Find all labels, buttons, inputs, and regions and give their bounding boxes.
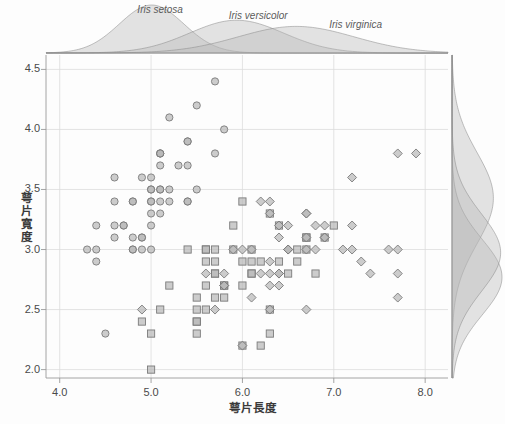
data-point bbox=[102, 330, 109, 337]
data-point bbox=[211, 150, 218, 157]
x-tick-label: 4.0 bbox=[40, 386, 80, 398]
data-point bbox=[157, 150, 164, 157]
data-point bbox=[211, 270, 218, 277]
x-tick-label: 5.0 bbox=[131, 386, 171, 398]
data-point bbox=[147, 174, 154, 181]
data-point bbox=[330, 222, 337, 229]
data-point bbox=[193, 186, 200, 193]
data-point bbox=[193, 318, 200, 325]
data-point bbox=[257, 342, 264, 349]
x-axis-title: 萼片長度 bbox=[0, 399, 505, 415]
data-point bbox=[147, 210, 154, 217]
y-tick-label: 3.0 bbox=[8, 243, 40, 255]
data-point bbox=[129, 234, 136, 241]
data-point bbox=[93, 246, 100, 253]
data-point bbox=[93, 222, 100, 229]
data-point bbox=[239, 198, 246, 205]
data-point bbox=[138, 246, 145, 253]
data-point bbox=[138, 174, 145, 181]
data-point bbox=[175, 162, 182, 169]
species-label-diamond: Iris virginica bbox=[329, 19, 382, 30]
data-point bbox=[138, 234, 145, 241]
species-label-circle: Iris setosa bbox=[137, 4, 183, 15]
data-point bbox=[157, 198, 164, 205]
data-point bbox=[111, 234, 118, 241]
data-point bbox=[111, 222, 118, 229]
data-point bbox=[294, 246, 301, 253]
data-point bbox=[211, 246, 218, 253]
data-point bbox=[285, 270, 292, 277]
data-point bbox=[193, 330, 200, 337]
data-point bbox=[193, 102, 200, 109]
y-tick-label: 4.5 bbox=[8, 62, 40, 74]
data-point bbox=[111, 174, 118, 181]
species-label-square: Iris versicolor bbox=[229, 10, 288, 21]
data-point bbox=[157, 186, 164, 193]
data-point bbox=[166, 282, 173, 289]
data-point bbox=[111, 198, 118, 205]
data-point bbox=[275, 258, 282, 265]
data-point bbox=[239, 258, 246, 265]
data-point bbox=[147, 366, 154, 373]
data-point bbox=[129, 198, 136, 205]
x-tick-label: 6.0 bbox=[222, 386, 262, 398]
data-point bbox=[147, 246, 154, 253]
data-point bbox=[202, 246, 209, 253]
data-point bbox=[157, 306, 164, 313]
data-point bbox=[211, 258, 218, 265]
x-tick-label: 7.0 bbox=[314, 386, 354, 398]
data-point bbox=[129, 246, 136, 253]
data-point bbox=[147, 330, 154, 337]
y-tick-label: 2.0 bbox=[8, 363, 40, 375]
data-point bbox=[193, 294, 200, 301]
y-axis-title: 萼片寬度 bbox=[11, 192, 31, 244]
data-point bbox=[147, 186, 154, 193]
data-point bbox=[120, 222, 127, 229]
data-point bbox=[248, 258, 255, 265]
data-point bbox=[211, 78, 218, 85]
data-point bbox=[248, 270, 255, 277]
data-point bbox=[157, 210, 164, 217]
data-point bbox=[147, 222, 154, 229]
data-point bbox=[230, 222, 237, 229]
data-point bbox=[221, 126, 228, 133]
data-point bbox=[166, 114, 173, 121]
data-point bbox=[184, 246, 191, 253]
data-point bbox=[184, 162, 191, 169]
data-point bbox=[147, 198, 154, 205]
data-point bbox=[239, 282, 246, 289]
y-tick-label: 2.5 bbox=[8, 303, 40, 315]
data-point bbox=[184, 138, 191, 145]
y-tick-label: 4.0 bbox=[8, 122, 40, 134]
data-point bbox=[166, 198, 173, 205]
data-point bbox=[312, 270, 319, 277]
data-point bbox=[138, 318, 145, 325]
data-point bbox=[193, 306, 200, 313]
data-point bbox=[266, 330, 273, 337]
iris-scatter-figure bbox=[0, 0, 505, 424]
data-point bbox=[93, 258, 100, 265]
data-point bbox=[202, 306, 209, 313]
data-point bbox=[294, 258, 301, 265]
data-point bbox=[184, 198, 191, 205]
data-point bbox=[257, 258, 264, 265]
figure-background bbox=[0, 0, 505, 424]
data-point bbox=[221, 294, 228, 301]
data-point bbox=[166, 186, 173, 193]
data-point bbox=[211, 294, 218, 301]
data-point bbox=[157, 162, 164, 169]
x-tick-label: 8.0 bbox=[405, 386, 445, 398]
data-point bbox=[202, 282, 209, 289]
data-point bbox=[84, 246, 91, 253]
data-point bbox=[202, 258, 209, 265]
